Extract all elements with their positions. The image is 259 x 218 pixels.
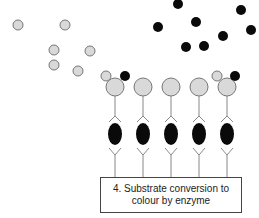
substrate-molecule: [49, 60, 59, 70]
product-molecule: [236, 5, 246, 15]
caption-box: 4. Substrate conversion to colour by enz…: [100, 177, 242, 213]
capture-antibody-arms: [193, 148, 205, 155]
bound-substrate: [101, 71, 111, 81]
antigen: [164, 123, 178, 145]
capture-antibody-arms: [109, 148, 121, 155]
antigen: [192, 123, 206, 145]
bound-product: [120, 71, 130, 81]
detection-antibody-arms: [165, 116, 177, 122]
bound-substrate: [212, 71, 222, 81]
capture-antibody-arms: [221, 148, 233, 155]
detection-antibody-arms: [221, 116, 233, 122]
substrate-molecule: [49, 45, 59, 55]
product-molecule: [173, 0, 183, 9]
product-molecule: [218, 31, 228, 41]
product-molecule: [153, 22, 163, 32]
enzyme: [190, 78, 208, 96]
substrate-molecule: [73, 66, 83, 76]
substrate-molecule: [85, 46, 95, 56]
enzyme: [162, 78, 180, 96]
product-molecule: [181, 42, 191, 52]
enzyme: [134, 78, 152, 96]
bound-product: [230, 71, 240, 81]
capture-antibody-arms: [165, 148, 177, 155]
product-molecule: [191, 17, 201, 27]
elisa-diagram: 4. Substrate conversion to colour by enz…: [0, 0, 259, 218]
detection-antibody-arms: [137, 116, 149, 122]
caption-line-1: 4. Substrate conversion to: [113, 183, 229, 195]
detection-antibody-arms: [109, 116, 121, 122]
product-molecule: [199, 41, 209, 51]
antigen: [108, 123, 122, 145]
caption-line-2: colour by enzyme: [132, 195, 210, 207]
antigen: [220, 123, 234, 145]
product-molecule: [246, 25, 256, 35]
substrate-molecule: [60, 20, 70, 30]
capture-antibody-arms: [137, 148, 149, 155]
antigen: [136, 123, 150, 145]
detection-antibody-arms: [193, 116, 205, 122]
substrate-molecule: [13, 20, 23, 30]
